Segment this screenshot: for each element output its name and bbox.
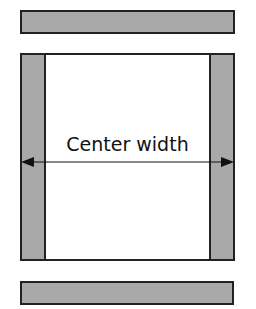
top-bar <box>20 10 235 34</box>
double-arrow-icon <box>20 156 235 168</box>
center-width-label: Center width <box>22 133 233 155</box>
bottom-bar <box>20 281 234 305</box>
center-frame: Center width <box>20 53 235 261</box>
